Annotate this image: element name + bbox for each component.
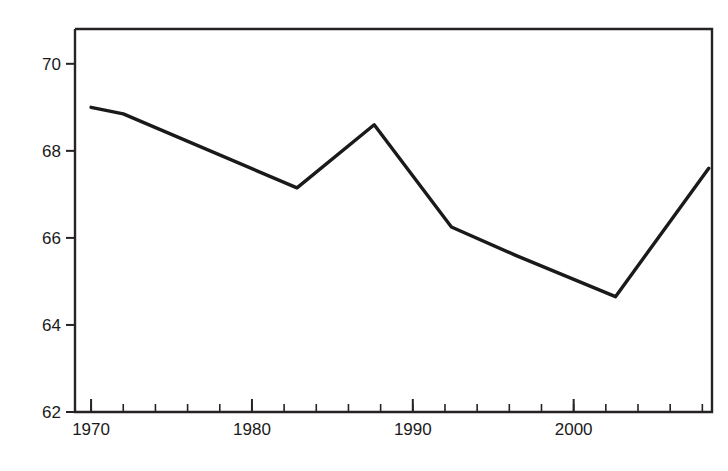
y-tick-label: 62	[42, 403, 61, 422]
y-tick-label: 68	[42, 142, 61, 161]
y-tick-label: 64	[42, 316, 61, 335]
line-chart-plot: 6264666870 1970198019902000	[0, 0, 728, 471]
y-tick-label: 66	[42, 229, 61, 248]
x-tick-label: 1990	[394, 420, 432, 439]
x-tick-label: 2000	[555, 420, 593, 439]
x-tick-label: 1970	[72, 420, 110, 439]
x-tick-label: 1980	[233, 420, 271, 439]
chart-background	[0, 0, 728, 471]
y-tick-label: 70	[42, 55, 61, 74]
chart-figure: ロシア人の平均寿命 （出生時平均余命、歳） 6264666870 1970198…	[0, 0, 728, 471]
